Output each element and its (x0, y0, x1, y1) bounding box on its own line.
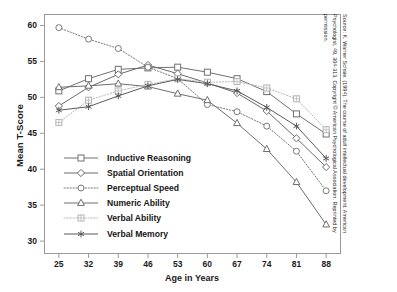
y-tick-label: 50 (11, 92, 37, 102)
legend-item[interactable]: Perceptual Speed (62, 180, 222, 195)
x-tick-label: 39 (106, 259, 130, 269)
marker-triangle (78, 199, 85, 205)
legend-marker-square-icon (62, 151, 100, 165)
y-tick-label: 35 (11, 200, 37, 210)
legend-marker-circle-icon (62, 181, 100, 195)
legend-item[interactable]: Spatial Orientation (62, 165, 222, 180)
legend-label: Verbal Memory (107, 229, 168, 239)
chart-figure: Mean T-Score Age in Years 30354045505560… (0, 0, 397, 292)
y-tick-label: 40 (11, 164, 37, 174)
legend-label: Numeric Ability (107, 198, 170, 208)
x-tick-label: 81 (284, 259, 308, 269)
x-tick-label: 60 (195, 259, 219, 269)
legend-label: Verbal Ability (107, 213, 161, 223)
legend-marker-asterisk-icon (62, 227, 100, 241)
y-tick-label: 30 (11, 236, 37, 246)
marker-square (78, 155, 84, 161)
source-note: Source: K. Warner Schaie. (1994). The co… (309, 14, 349, 262)
legend-item[interactable]: Verbal Memory (62, 226, 222, 241)
x-tick-label: 46 (136, 259, 160, 269)
legend-marker-triangle-icon (62, 196, 100, 210)
marker-diamond (77, 169, 84, 176)
legend-marker-diamond-icon (62, 166, 100, 180)
y-tick-label: 60 (11, 20, 37, 30)
x-tick-label: 25 (47, 259, 71, 269)
y-tick-label: 55 (11, 56, 37, 66)
marker-circle (78, 185, 84, 191)
legend-item[interactable]: Inductive Reasoning (62, 150, 222, 165)
x-tick-label: 32 (77, 259, 101, 269)
legend-item[interactable]: Numeric Ability (62, 196, 222, 211)
legend-marker-square-grid-icon (62, 211, 100, 225)
x-tick-label: 74 (255, 259, 279, 269)
legend-item[interactable]: Verbal Ability (62, 211, 222, 226)
legend-label: Inductive Reasoning (107, 153, 191, 163)
x-axis-title: Age in Years (44, 273, 340, 283)
legend-label: Perceptual Speed (107, 183, 179, 193)
y-tick-label: 45 (11, 128, 37, 138)
chart-legend: Inductive ReasoningSpatial OrientationPe… (62, 150, 222, 241)
x-tick-label: 67 (225, 259, 249, 269)
x-tick-label: 53 (166, 259, 190, 269)
legend-label: Spatial Orientation (107, 168, 183, 178)
